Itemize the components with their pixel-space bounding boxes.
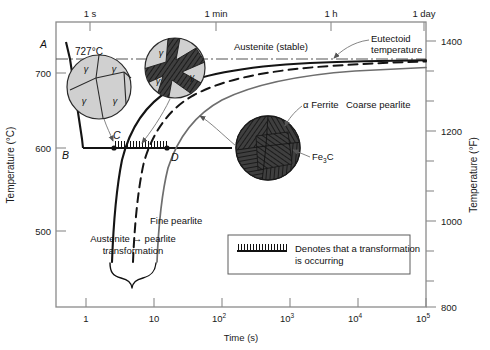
ttt-diagram-figure: 1 s 1 min 1 h 1 day 1 10 102 103 104 105… — [0, 0, 490, 350]
gamma-label-7: γ — [190, 72, 195, 82]
transform-line1: Austenite → pearlite — [90, 233, 176, 244]
ttt-diagram-svg: 1 s 1 min 1 h 1 day 1 10 102 103 104 105… — [0, 0, 490, 350]
alpha-ferrite-text: α Ferrite — [303, 99, 339, 110]
top-tick-label-1s: 1 s — [84, 8, 97, 19]
y2-tick-label-1000: 1000 — [441, 216, 462, 227]
transform-line2: transformation — [103, 245, 164, 256]
label-transformation: Austenite → pearlite transformation — [90, 233, 176, 256]
top-tick-label-1min: 1 min — [204, 8, 227, 19]
label-coarse-pearlite: Coarse pearlite — [346, 99, 410, 110]
y2-tick-label-1200: 1200 — [441, 126, 462, 137]
legend-line2: is occurring — [295, 255, 344, 266]
gamma-label-4: γ — [113, 96, 118, 106]
eutectoid-label-line1: Eutectoid — [371, 33, 411, 44]
label-point-D: D — [171, 151, 179, 163]
y-axis-right-title: Temperature (°F) — [468, 137, 479, 213]
y-tick-label-700: 700 — [35, 68, 51, 79]
label-point-C: C — [113, 129, 121, 141]
transformation-hatch-segment — [114, 141, 167, 149]
point-marker-C — [111, 145, 116, 150]
gamma-label-3: γ — [82, 96, 87, 106]
gamma-label-2: γ — [112, 64, 117, 74]
gamma-label-5: γ — [159, 48, 164, 58]
top-tick-label-1day: 1 day — [412, 8, 435, 19]
gamma-label-6: γ — [156, 76, 161, 86]
label-austenite-stable: Austenite (stable) — [234, 41, 308, 52]
x-tick-label-10: 10 — [149, 313, 160, 324]
y-tick-label-500: 500 — [35, 226, 51, 237]
top-tick-label-1h: 1 h — [324, 8, 337, 19]
y2-tick-label-1400: 1400 — [441, 36, 462, 47]
label-fine-pearlite: Fine pearlite — [150, 215, 202, 226]
x-axis-title: Time (s) — [224, 332, 258, 343]
point-marker-D — [164, 145, 169, 150]
label-point-B: B — [62, 149, 69, 161]
y-tick-label-600: 600 — [35, 143, 51, 154]
label-point-A: A — [39, 38, 47, 50]
legend-box: Denotes that a transformation is occurri… — [228, 235, 420, 274]
y2-tick-label-800: 800 — [441, 302, 457, 313]
legend-symbol-hatched-bar — [237, 244, 287, 251]
eutectoid-label-line2: temperature — [371, 44, 422, 55]
legend-line1: Denotes that a transformation — [295, 243, 420, 254]
x-tick-label-1: 1 — [83, 313, 88, 324]
gamma-label-1: γ — [84, 64, 89, 74]
fe3c-text: Fe3C — [312, 151, 334, 164]
y-axis-left-title: Temperature (°C) — [5, 127, 16, 204]
